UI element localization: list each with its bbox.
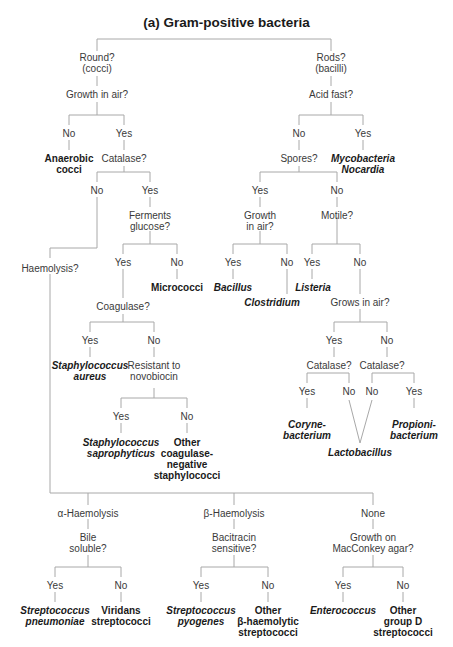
edge-spores-yes: Yes: [252, 185, 268, 196]
edge-cat-left-no: No: [343, 386, 356, 397]
edge-bacitracin-yes: Yes: [193, 580, 209, 591]
result-corynebacterium: Coryne- bacterium: [283, 419, 331, 441]
result-micrococci: Micrococci: [151, 282, 203, 293]
result-propionibacterium: Propioni- bacterium: [390, 419, 438, 441]
edge-novobiocin-yes: Yes: [113, 411, 129, 422]
edge-growth-yes: Yes: [116, 128, 132, 139]
node-bacitracin-sensitive: Bacitracin sensitive?: [212, 532, 256, 554]
edge-catalase-yes: Yes: [142, 185, 158, 196]
result-staphylococcus-saprophyticus: Staphylococcus saprophyticus: [83, 437, 160, 459]
edge-bile-yes: Yes: [47, 580, 63, 591]
result-anaerobic-cocci: Anaerobic cocci: [45, 153, 94, 175]
node-ferments-glucose: Ferments glucose?: [129, 210, 171, 232]
edge-catalase-no: No: [91, 185, 104, 196]
edge-acid-no: No: [293, 128, 306, 139]
diagram-title: (a) Gram-positive bacteria: [0, 15, 453, 30]
node-spores: Spores?: [280, 153, 317, 164]
result-streptococcus-pneumoniae: Streptococcus pneumoniae: [20, 605, 89, 627]
result-listeria: Listeria: [295, 282, 331, 293]
edge-macconkey-no: No: [397, 580, 410, 591]
edge-ferments-no: No: [171, 257, 184, 268]
node-catalase-right: Catalase?: [359, 360, 404, 371]
edge-bacitracin-no: No: [262, 580, 275, 591]
node-no-haemolysis: None: [361, 508, 385, 519]
result-bacillus: Bacillus: [214, 282, 252, 293]
result-other-coagulase-negative: Other coagulase- negative staphylococci: [154, 437, 221, 481]
node-rods-bacilli: Rods? (bacilli): [315, 52, 347, 74]
node-acid-fast: Acid fast?: [309, 89, 353, 100]
result-enterococcus: Enterococcus: [310, 605, 376, 616]
result-mycobacteria-nocardia: Mycobacteria Nocardia: [331, 153, 395, 175]
edge-growth-air-no: No: [281, 257, 294, 268]
edge-spores-no: No: [331, 185, 344, 196]
result-other-group-d: Other group D streptococci: [373, 605, 432, 638]
node-coagulase: Coagulase?: [96, 301, 149, 312]
edge-motile-yes: Yes: [304, 257, 320, 268]
flowchart-canvas: (a) Gram-positive bacteria Round? (cocci…: [0, 0, 453, 647]
result-clostridium: Clostridium: [244, 297, 300, 308]
edge-cat-left-yes: Yes: [299, 386, 315, 397]
edge-grows-air-yes: Yes: [326, 335, 342, 346]
node-catalase-cocci: Catalase?: [101, 153, 146, 164]
edge-ferments-yes: Yes: [115, 257, 131, 268]
edge-macconkey-yes: Yes: [335, 580, 351, 591]
node-growth-in-air-cocci: Growth in air?: [66, 89, 128, 100]
edge-motile-no: No: [354, 257, 367, 268]
edge-cat-right-no: No: [366, 386, 379, 397]
edge-growth-air-yes: Yes: [225, 257, 241, 268]
edge-novobiocin-no: No: [181, 411, 194, 422]
node-growth-on-macconkey: Growth on MacConkey agar?: [332, 532, 413, 554]
node-round-cocci: Round? (cocci): [79, 52, 114, 74]
node-resistant-to-novobiocin: Resistant to novobiocin: [128, 360, 181, 382]
node-catalase-left: Catalase?: [306, 360, 351, 371]
edge-cat-right-yes: Yes: [406, 386, 422, 397]
node-grows-in-air: Grows in air?: [331, 297, 390, 308]
edge-grows-air-no: No: [381, 335, 394, 346]
result-streptococcus-pyogenes: Streptococcus pyogenes: [166, 605, 235, 627]
node-alpha-haemolysis: α-Haemolysis: [58, 508, 119, 519]
edge-acid-yes: Yes: [355, 128, 371, 139]
node-motile: Motile?: [321, 210, 353, 221]
edge-growth-no: No: [63, 128, 76, 139]
result-staphylococcus-aureus: Staphylococcus aureus: [52, 360, 129, 382]
node-growth-in-air-bacilli: Growth in air?: [244, 210, 276, 232]
result-other-beta-haemolytic: Other β-haemolytic streptococci: [237, 605, 299, 638]
edge-bile-no: No: [115, 580, 128, 591]
edge-coagulase-yes: Yes: [82, 335, 98, 346]
result-viridans-streptococci: Viridans streptococci: [91, 605, 150, 627]
edge-coagulase-no: No: [148, 335, 161, 346]
node-bile-soluble: Bile soluble?: [69, 532, 106, 554]
node-beta-haemolysis: β-Haemolysis: [204, 508, 265, 519]
node-haemolysis: Haemolysis?: [21, 263, 78, 274]
result-lactobacillus: Lactobacillus: [328, 447, 392, 458]
